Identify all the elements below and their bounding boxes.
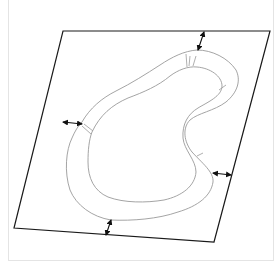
dimension-arrows [63,32,231,235]
left-clearance-arrow [63,122,82,124]
ring-on-sheet-diagram [0,0,277,276]
bottom-clearance-arrow [106,220,111,235]
ring-inner-outline [88,67,222,202]
sheet-outline [14,31,270,242]
ring-outer-outline [66,50,238,220]
top-clearance-arrow [198,32,204,50]
right-clearance-arrow [213,173,231,175]
